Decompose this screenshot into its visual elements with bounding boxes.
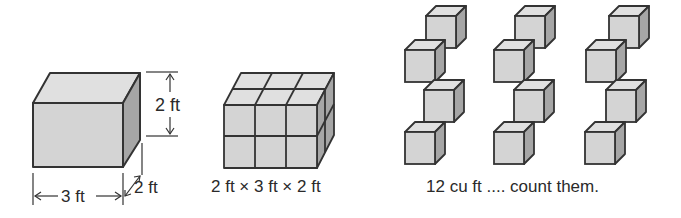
cube-column-2 <box>494 6 555 164</box>
height-label: 2 ft <box>155 96 180 114</box>
width-label: 3 ft <box>61 188 85 205</box>
solid-box <box>33 73 140 167</box>
cube-column-1 <box>405 6 466 164</box>
cube-count-caption: 12 cu ft .... count them. <box>426 178 599 195</box>
depth-label: 2 ft <box>134 179 158 196</box>
unit-cube-block <box>224 73 334 168</box>
block-dimensions-caption: 2 ft × 3 ft × 2 ft <box>211 178 321 195</box>
cube-column-3 <box>585 6 649 164</box>
